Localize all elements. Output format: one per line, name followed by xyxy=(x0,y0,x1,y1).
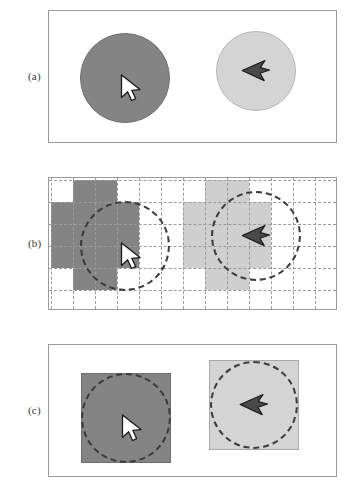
raster-outline-layer xyxy=(49,178,336,309)
white-arrow-down-right xyxy=(120,74,146,104)
figure-root: (a)(b)(c) xyxy=(0,0,352,495)
panel-b xyxy=(48,177,337,310)
dark-arrow-left xyxy=(241,224,271,248)
dark-arrow-left xyxy=(241,59,271,83)
dark-arrow-left xyxy=(239,393,269,417)
panel-c xyxy=(48,344,337,477)
white-arrow-down-right xyxy=(120,242,146,272)
panel-label-c: (c) xyxy=(28,404,41,416)
white-arrow-down-right xyxy=(121,414,147,444)
panel-label-b: (b) xyxy=(28,237,41,249)
panel-label-a: (a) xyxy=(28,70,41,82)
panel-a xyxy=(48,10,337,143)
